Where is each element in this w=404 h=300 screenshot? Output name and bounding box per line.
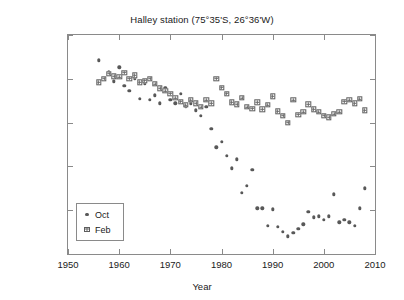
data-point-feb (239, 95, 244, 100)
data-point-oct (363, 187, 366, 190)
data-point-oct (256, 207, 259, 210)
legend-label-oct: Oct (95, 210, 109, 220)
x-tick-mark (170, 35, 171, 40)
y-tick-mark (370, 166, 375, 167)
data-point-feb (301, 109, 306, 114)
y-tick-mark (68, 210, 73, 211)
x-tick-mark (273, 35, 274, 40)
data-point-feb (285, 120, 290, 125)
data-point-oct (138, 97, 141, 100)
x-tick-mark (375, 249, 376, 254)
data-point-oct (225, 154, 228, 157)
x-tick-label: 2010 (352, 259, 398, 270)
data-point-feb (280, 113, 285, 118)
y-tick-mark (68, 254, 73, 255)
data-point-oct (271, 208, 274, 211)
x-axis-label: Year (0, 281, 404, 292)
x-tick-mark (222, 249, 223, 254)
x-tick-label: 1970 (147, 259, 193, 270)
data-point-feb (214, 76, 219, 81)
data-point-feb (249, 106, 254, 111)
data-point-feb (209, 101, 214, 106)
data-point-feb (290, 97, 295, 102)
data-point-oct (317, 215, 320, 218)
data-point-oct (220, 140, 223, 143)
ozone-scatter-chart: Halley station (75°35'S, 26°36'W) 100150… (0, 0, 404, 300)
data-point-oct (358, 207, 361, 210)
legend-item-oct: Oct (77, 207, 123, 222)
data-point-oct (327, 215, 330, 218)
oct-marker-icon (82, 210, 92, 220)
data-point-oct (194, 109, 197, 112)
data-point-feb (357, 96, 362, 101)
data-point-feb (270, 94, 275, 99)
data-point-oct (123, 84, 126, 87)
data-point-oct (348, 221, 351, 224)
data-point-oct (97, 59, 100, 62)
data-point-oct (174, 102, 177, 105)
data-point-feb (224, 91, 229, 96)
y-tick-mark (370, 254, 375, 255)
data-point-oct (215, 145, 218, 148)
data-point-feb (362, 108, 367, 113)
data-point-feb (255, 100, 260, 105)
data-point-oct (281, 230, 284, 233)
x-tick-mark (68, 249, 69, 254)
data-point-feb (265, 102, 270, 107)
x-tick-mark (324, 35, 325, 40)
data-point-oct (240, 191, 243, 194)
feb-marker-icon (82, 225, 92, 235)
data-point-oct (343, 218, 346, 221)
data-point-oct (169, 98, 172, 101)
data-point-oct (332, 193, 335, 196)
x-tick-mark (375, 35, 376, 40)
data-point-feb (183, 102, 188, 107)
y-tick-mark (68, 79, 73, 80)
data-point-oct (158, 102, 161, 105)
data-point-oct (245, 184, 248, 187)
data-point-oct (353, 224, 356, 227)
data-point-oct (230, 166, 233, 169)
x-tick-label: 1980 (199, 259, 245, 270)
y-tick-mark (370, 123, 375, 124)
x-tick-label: 2000 (301, 259, 347, 270)
data-point-oct (250, 168, 253, 171)
y-tick-mark (68, 123, 73, 124)
x-tick-label: 1990 (250, 259, 296, 270)
data-point-feb (122, 70, 127, 75)
x-tick-mark (273, 249, 274, 254)
data-point-oct (302, 223, 305, 226)
chart-legend: Oct Feb (76, 203, 124, 241)
x-tick-mark (324, 249, 325, 254)
data-point-oct (312, 216, 315, 219)
data-point-oct (297, 227, 300, 230)
data-point-oct (128, 89, 131, 92)
data-point-feb (234, 102, 239, 107)
data-point-feb (101, 76, 106, 81)
chart-title: Halley station (75°35'S, 26°36'W) (0, 14, 404, 25)
data-point-oct (235, 158, 238, 161)
data-point-oct (276, 225, 279, 228)
y-tick-mark (370, 79, 375, 80)
data-point-oct (291, 231, 294, 234)
data-point-oct (179, 92, 182, 95)
data-point-oct (266, 224, 269, 227)
data-point-feb (336, 109, 341, 114)
x-tick-label: 1950 (45, 259, 91, 270)
data-point-oct (153, 94, 156, 97)
legend-label-feb: Feb (95, 225, 111, 235)
x-tick-mark (170, 249, 171, 254)
x-tick-label: 1960 (96, 259, 142, 270)
data-point-oct (204, 105, 207, 108)
data-point-oct (322, 218, 325, 221)
data-point-oct (117, 66, 120, 69)
y-tick-mark (370, 210, 375, 211)
data-point-oct (210, 127, 213, 130)
x-tick-mark (119, 35, 120, 40)
x-tick-mark (119, 249, 120, 254)
y-tick-mark (68, 166, 73, 167)
data-point-feb (198, 104, 203, 109)
legend-item-feb: Feb (77, 222, 123, 237)
x-tick-mark (68, 35, 69, 40)
data-point-oct (148, 98, 151, 101)
